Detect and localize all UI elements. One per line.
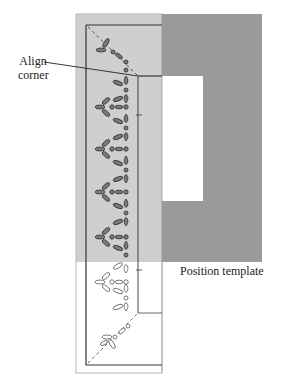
align-corner-label-line1: Align — [18, 54, 48, 68]
diagram: Align corner Position template — [0, 0, 288, 390]
position-template-label: Position template — [180, 264, 264, 278]
align-corner-label-line2: corner — [18, 68, 48, 82]
align-corner-label: Align corner — [18, 54, 48, 82]
